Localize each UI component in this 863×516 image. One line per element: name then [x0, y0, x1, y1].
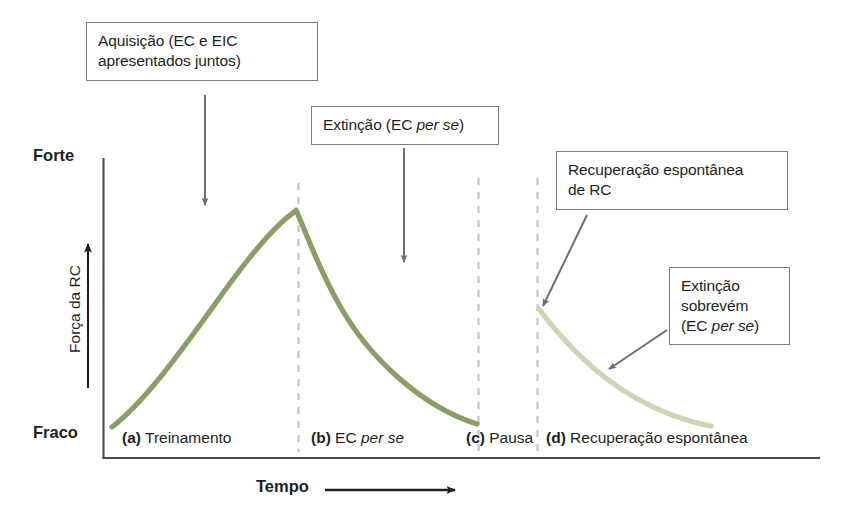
phase-label-d-letter: (d) — [546, 429, 566, 446]
callout-extinction-suffix: ) — [459, 116, 464, 133]
callout-reextinction-line3-prefix: (EC — [681, 317, 712, 334]
callout-reextinction-line3-italic: per se — [712, 317, 754, 334]
x-axis-title: Tempo — [256, 477, 309, 496]
callout-recovery: Recuperação espontânea de RC — [556, 151, 788, 210]
callout-extinction: Extinção (EC per se) — [311, 106, 499, 145]
callout-extinction-italic: per se — [416, 116, 458, 133]
recovery-callout-arrow — [543, 215, 587, 306]
callout-acquisition-line1: Aquisição (EC e EIC — [98, 32, 237, 49]
callout-acquisition-line2: apresentados juntos) — [98, 52, 241, 69]
phase-label-c: (c) Pausa — [466, 429, 533, 447]
phase-label-b: (b) EC per se — [311, 429, 404, 447]
phase-label-d: (d) Recuperação espontânea — [546, 429, 748, 447]
phase-label-a: (a) Treinamento — [122, 429, 231, 447]
callout-reextinction: Extinção sobrevém (EC per se) — [669, 267, 790, 345]
phase-label-b-letter: (b) — [311, 429, 331, 446]
phase-label-b-name: EC — [335, 429, 361, 446]
callout-recovery-line1: Recuperação espontânea — [568, 161, 743, 178]
reextinction-callout-arrow — [609, 330, 667, 369]
figure-container: Aquisição (EC e EIC apresentados juntos)… — [0, 0, 863, 516]
phase-label-a-letter: (a) — [122, 429, 141, 446]
y-axis-title: Força da RC — [66, 229, 84, 389]
callout-recovery-line2: de RC — [568, 181, 611, 198]
phase-label-c-name: Pausa — [489, 429, 533, 446]
y-axis-top-label: Forte — [33, 146, 74, 165]
callout-reextinction-line2: sobrevém — [681, 297, 748, 314]
callout-reextinction-line1: Extinção — [681, 277, 740, 294]
y-axis-bottom-label: Fraco — [33, 423, 78, 442]
callout-reextinction-line3-suffix: ) — [754, 317, 759, 334]
phase-label-c-letter: (c) — [466, 429, 485, 446]
callout-extinction-prefix: Extinção (EC — [323, 116, 416, 133]
acquisition-curve — [112, 211, 296, 427]
phase-label-a-name: Treinamento — [145, 429, 231, 446]
extinction-curve — [296, 210, 477, 424]
callout-acquisition: Aquisição (EC e EIC apresentados juntos) — [86, 22, 318, 81]
phase-label-b-italic: per se — [361, 429, 404, 446]
phase-label-d-name: Recuperação espontânea — [570, 429, 748, 446]
